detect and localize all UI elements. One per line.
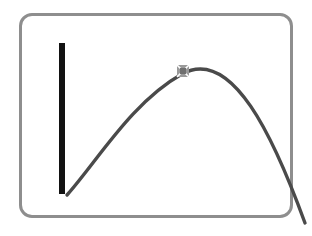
trace-cursor[interactable] xyxy=(177,65,189,77)
y-axis xyxy=(59,43,65,194)
calculator-screen: Maximum X=25.000003 Y=1250 xyxy=(0,0,312,236)
readout-block: Maximum X=25.000003 Y=1250 xyxy=(60,192,310,229)
lcd-display-area[interactable]: Maximum X=25.000003 Y=1250 xyxy=(46,34,310,229)
lcd-bezel: Maximum X=25.000003 Y=1250 xyxy=(19,13,293,218)
